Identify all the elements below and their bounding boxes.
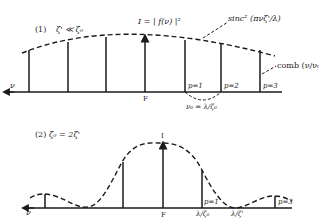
panel2-sinc-envelope [30,143,292,208]
panel1-comb-leader [262,66,276,74]
panel2-plot [25,143,292,208]
panel1-condition: ζ' ≪ ζ₀ [56,26,83,34]
panel2-order-3: p=3 [278,199,293,206]
panel2-condition: ζ₀ = 2ζ' [49,131,80,139]
panel2-focus-label: F [161,212,166,219]
panel1-axis-label: ν [10,82,15,90]
panel2-axis-label: ν [26,209,31,217]
diagram-canvas [0,0,319,224]
panel1-order-1: p=1 [188,83,203,90]
panel1-sinc-leader [203,22,228,38]
panel2-number: (2) [35,131,46,139]
panel1-order-2: p=2 [224,83,239,90]
panel1-focus-label: F [143,96,148,103]
panel2-order-1: p=1 [204,199,219,206]
panel2-tick-lambda-zeta0: λ/ζ₀ [196,211,209,218]
panel2-intensity-label: I [161,133,164,140]
panel2-tick-lambda-zetaprime: λ/ζ' [231,211,244,218]
panel1-sinc-envelope [22,34,275,56]
panel1-number: (1) [35,26,46,34]
panel1-intensity-label: I = | f(ν) |² [138,18,181,26]
panel1-spacing-arc [185,92,221,100]
panel1-plot [6,22,282,100]
panel1-comb-label: comb (ν/ν₀) [277,62,319,70]
panel1-order-3: p=3 [263,83,278,90]
panel1-envelope-label: sinc² (πνζ'/λ) [228,15,281,23]
panel1-spacing-label: ν₀ = λ/ζ₀ [186,104,217,111]
